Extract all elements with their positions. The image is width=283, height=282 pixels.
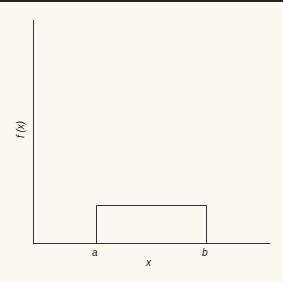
uniform-distribution-diagram bbox=[0, 0, 283, 282]
tick-label-a: a bbox=[92, 247, 98, 258]
density-rectangle bbox=[97, 206, 207, 244]
y-axis-label: f (x) bbox=[15, 115, 26, 145]
x-axis-label: x bbox=[146, 257, 151, 268]
tick-label-b: b bbox=[202, 247, 208, 258]
